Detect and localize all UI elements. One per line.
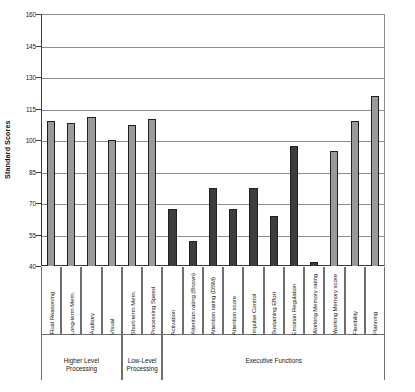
y-tick-label-160: 160 — [10, 11, 36, 18]
bar — [67, 123, 75, 266]
category-label: Auditory — [88, 311, 95, 335]
category-label: Activation — [169, 308, 176, 335]
group-cell: Higher Level Processing — [41, 335, 122, 380]
bar — [128, 125, 136, 266]
y-tick-label-115: 115 — [10, 105, 36, 112]
bar — [148, 119, 156, 266]
category-cell: Visual — [102, 267, 122, 335]
bar — [108, 140, 116, 266]
group-label: Low-Level Processing — [123, 357, 161, 374]
category-cell: Activation — [162, 267, 182, 335]
category-label-strip: Fluid ReasoningLong-term Mem.AuditoryVis… — [41, 267, 385, 335]
group-label: Higher Level Processing — [42, 357, 121, 374]
category-label: Working Memory rating — [311, 272, 318, 335]
y-axis-title: Standard Scores — [0, 105, 14, 195]
bar — [270, 216, 278, 266]
y-tick-label-130: 130 — [10, 74, 36, 81]
category-label: Planning — [371, 310, 378, 335]
group-label: Executive Functions — [163, 357, 384, 365]
y-tick-label-40: 40 — [10, 263, 36, 270]
group-cell: Low-Level Processing — [122, 335, 162, 380]
bars-layer — [41, 14, 385, 266]
category-label: Processing Speed — [149, 285, 156, 335]
bar — [189, 241, 197, 266]
group-cell: Executive Functions — [162, 335, 385, 380]
category-cell: Planning — [365, 267, 385, 335]
category-label: Sustaining Effort — [270, 290, 277, 335]
bar — [168, 209, 176, 266]
category-cell: Attention rating (DSM) — [203, 267, 223, 335]
category-cell: Emotion Regulation — [284, 267, 304, 335]
bar — [371, 96, 379, 266]
category-label: Visual — [108, 317, 115, 335]
category-cell: Attention score — [223, 267, 243, 335]
category-label: Working Memory score — [331, 272, 338, 335]
category-label: Attention rating (Brown) — [189, 271, 196, 335]
y-tick-label-100: 100 — [10, 137, 36, 144]
category-cell: Processing Speed — [142, 267, 162, 335]
y-tick-label-145: 145 — [10, 42, 36, 49]
bar — [330, 151, 338, 267]
bar-chart: Standard Scores 40557085100115130145160 … — [0, 0, 415, 392]
bar — [87, 117, 95, 266]
bar — [209, 188, 217, 266]
category-cell: Impulse Control — [243, 267, 263, 335]
group-label-strip: Higher Level ProcessingLow-Level Process… — [41, 335, 385, 392]
category-label: Emotion Regulation — [290, 282, 297, 335]
category-cell: Long-term Mem. — [61, 267, 81, 335]
category-cell: Auditory — [81, 267, 101, 335]
bar — [249, 188, 257, 266]
category-label: Impulse Control — [250, 292, 257, 335]
category-label: Attention score — [230, 294, 237, 335]
category-cell: Attention rating (Brown) — [183, 267, 203, 335]
bar — [229, 209, 237, 266]
category-cell: Working Memory rating — [304, 267, 324, 335]
category-cell: Fluid Reasoning — [41, 267, 61, 335]
category-label: Attention rating (DSM) — [209, 275, 216, 335]
category-cell: Sustaining Effort — [264, 267, 284, 335]
bar — [290, 146, 298, 266]
category-label: Fluid Reasoning — [48, 290, 55, 335]
bar — [47, 121, 55, 266]
category-label: Short-term Mem. — [129, 289, 136, 335]
y-tick-label-55: 55 — [10, 231, 36, 238]
category-cell: Flexibility — [345, 267, 365, 335]
category-cell: Short-term Mem. — [122, 267, 142, 335]
y-tick-label-70: 70 — [10, 200, 36, 207]
bar — [351, 121, 359, 266]
bar — [310, 262, 318, 266]
category-cell: Working Memory score — [324, 267, 344, 335]
category-label: Flexibility — [351, 309, 358, 335]
category-label: Long-term Mem. — [68, 290, 75, 335]
y-tick-label-85: 85 — [10, 168, 36, 175]
